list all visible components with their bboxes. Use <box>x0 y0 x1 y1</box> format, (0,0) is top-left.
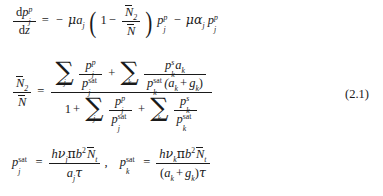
derivative-fraction: dppj dz <box>13 5 36 38</box>
sat-k-numerator: hνkπb2Nt <box>156 146 209 164</box>
n-symbol: N <box>18 95 26 109</box>
pi-symbol: π <box>177 146 185 161</box>
equation-pump-propagation: dppj dz = − μaj ( 1− N2 N ) ppj − μαj pp… <box>12 4 219 39</box>
n2-bar-numerator: N2 <box>122 4 140 22</box>
sigma-icon: ∑ <box>121 61 139 81</box>
derivative-numerator: dppj <box>13 5 36 22</box>
sigma-icon: ∑ <box>150 97 168 117</box>
equals-sign: = <box>40 13 51 27</box>
population-ratio-lhs: N2 N <box>13 75 31 110</box>
plus-sign-1: + <box>106 66 117 80</box>
minus-sign-2: − <box>172 13 183 27</box>
p-superscript-sat: sat <box>153 76 162 85</box>
p-subscript: k <box>183 124 186 133</box>
nu-subscript: j <box>65 155 67 164</box>
p-subscript: j <box>214 25 216 34</box>
p-subscript: j <box>18 167 20 176</box>
nt-subscript: t <box>204 155 206 164</box>
comma-separator: , <box>105 155 117 169</box>
p-superscript: p <box>92 58 96 67</box>
equation-saturation-powers: psatj = hνjπb2Nt ajτ , psatk = hνkπb2Nt … <box>12 146 211 181</box>
tau-symbol: τ <box>199 165 206 180</box>
signal-power-times-a: pskak <box>144 58 206 75</box>
a-subscript: k <box>181 66 184 75</box>
nu-subscript: k <box>173 155 176 164</box>
sat-power-k: psatk <box>174 111 197 127</box>
n-bar-denominator: N <box>13 93 31 110</box>
summation-over-j: ∑ j <box>56 61 74 87</box>
p-superscript-sat: sat <box>18 155 27 164</box>
summation-over-k: ∑ k <box>121 61 139 87</box>
n2-subscript: 2 <box>24 84 28 93</box>
p-subscript: k <box>126 167 129 176</box>
signal-power-k: psk <box>174 94 197 111</box>
plus-sign-inner: + <box>174 166 185 180</box>
inner-minus-sign: − <box>107 13 118 27</box>
summation-over-j: ∑ j <box>85 97 103 123</box>
a-subscript: k <box>170 174 173 183</box>
p-subscript: j <box>118 124 120 133</box>
equals-sign-2: = <box>141 155 152 169</box>
signal-over-psat-k: psk psatk <box>174 94 197 127</box>
master-denominator: 1+ ∑ j ppj psatj + ∑ k psk psatk <box>51 93 212 127</box>
minus-sign: − <box>54 13 65 27</box>
pump-over-psat-j: ppj psatj <box>79 58 102 91</box>
pump-power-j: ppj <box>79 58 102 75</box>
plus-sign-0: + <box>71 102 82 116</box>
equation-population-fraction: N2 N = ∑ j ppj psatj + ∑ k <box>12 58 213 127</box>
n-bar-denominator: N <box>122 22 140 39</box>
derivative-denominator: dz <box>13 22 36 38</box>
master-fraction: ∑ j ppj psatj + ∑ k pskak psatk(ak+gk) <box>51 58 212 127</box>
equation-block: dppj dz = − μaj ( 1− N2 N ) ppj − μαj pp… <box>0 0 383 196</box>
sat-power-j: psatj <box>79 75 102 91</box>
sat-j-denominator: ajτ <box>49 164 101 181</box>
group-close: ) <box>199 76 203 90</box>
n-symbol: N <box>127 24 135 38</box>
sat-k-denominator: (ak+gk)τ <box>156 164 209 181</box>
p-subscript: j <box>29 17 31 26</box>
plus-sign-inner: + <box>178 76 189 90</box>
mu-symbol-2: μ <box>186 12 194 27</box>
sat-power-j-fraction: hνjπb2Nt ajτ <box>49 146 101 181</box>
mu-symbol: μ <box>68 12 76 27</box>
g-subscript: k <box>191 174 194 183</box>
p-subscript: k <box>171 70 174 79</box>
tau-symbol: τ <box>75 165 82 180</box>
p-superscript-sat: sat <box>118 112 127 121</box>
sigma-icon: ∑ <box>56 61 74 81</box>
p-superscript: p <box>29 5 33 14</box>
a-subscript: j <box>82 21 84 30</box>
pi-symbol: π <box>68 146 76 161</box>
sat-power-j: psatj <box>109 111 132 127</box>
summation-over-k: ∑ k <box>150 97 168 123</box>
p-superscript: p <box>214 13 218 22</box>
p-superscript: p <box>164 13 168 22</box>
n2-subscript: 2 <box>133 13 137 22</box>
p-superscript-sat: sat <box>126 155 135 164</box>
one-literal: 1 <box>101 13 107 27</box>
nt-subscript: t <box>95 155 97 164</box>
p-subscript: j <box>164 25 166 34</box>
n-symbol: N <box>87 147 95 161</box>
master-numerator: ∑ j ppj psatj + ∑ k pskak psatk(ak+gk) <box>51 58 212 93</box>
b-exponent: 2 <box>82 146 86 155</box>
p-superscript: s <box>171 58 174 67</box>
a-subscript: j <box>73 174 75 183</box>
b-exponent: 2 <box>191 146 195 155</box>
population-ratio-fraction: N2 N <box>122 4 140 39</box>
signal-term-k: pskak psatk(ak+gk) <box>144 58 206 91</box>
plus-sign-2: + <box>136 102 147 116</box>
p-superscript-sat: sat <box>88 76 97 85</box>
sigma-icon: ∑ <box>85 97 103 117</box>
equals-sign: = <box>33 155 44 169</box>
a-subscript: k <box>175 84 178 93</box>
p-superscript: s <box>186 94 189 103</box>
g-subscript: k <box>195 84 198 93</box>
sat-power-k-fraction: hνkπb2Nt (ak+gk)τ <box>156 146 209 181</box>
equation-number: (2.1) <box>345 87 369 102</box>
equals-sign: = <box>35 84 46 98</box>
p-superscript-sat: sat <box>183 112 192 121</box>
pump-power-j: ppj <box>109 94 132 111</box>
p-superscript: p <box>121 94 125 103</box>
n2-bar-numerator: N2 <box>13 75 31 93</box>
